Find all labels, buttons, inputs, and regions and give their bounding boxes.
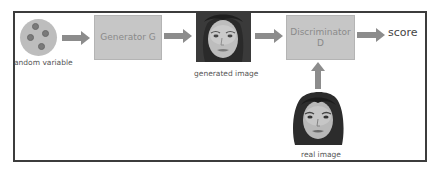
face-portrait-icon xyxy=(196,12,251,62)
arrow-noise-to-generator xyxy=(62,31,90,45)
noise-dot xyxy=(27,34,34,41)
arrow-discriminator-to-score xyxy=(357,28,385,42)
score-label: score xyxy=(388,26,418,39)
discriminator-box: Discriminator D xyxy=(286,15,355,60)
noise-dot xyxy=(32,23,39,30)
generated-image-label: generated image xyxy=(194,69,258,78)
arrow-generator-to-image xyxy=(164,29,192,43)
random-variable-label: andom variable xyxy=(14,58,73,67)
random-variable-circle xyxy=(20,19,57,56)
real-image-label: real image xyxy=(301,150,341,159)
face-portrait-icon xyxy=(291,91,345,145)
generator-box: Generator G xyxy=(94,15,162,60)
arrow-image-to-discriminator xyxy=(255,29,283,43)
real-image xyxy=(291,91,345,145)
arrow-real-to-discriminator xyxy=(311,62,325,89)
generator-label: Generator G xyxy=(100,32,156,43)
generated-image xyxy=(196,12,251,62)
discriminator-label-line2: D xyxy=(317,38,324,49)
noise-dot xyxy=(38,43,45,50)
discriminator-label-line1: Discriminator xyxy=(290,27,351,38)
noise-dot xyxy=(42,30,49,37)
